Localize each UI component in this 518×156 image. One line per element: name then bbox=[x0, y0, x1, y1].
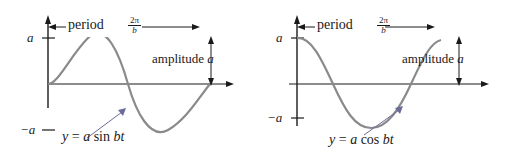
y-axis-label-positive-a: a bbox=[276, 31, 283, 44]
amplitude-annotation: amplitude a bbox=[152, 52, 214, 65]
period-denominator: b bbox=[128, 25, 141, 35]
y-axis-label-negative-a: −a bbox=[20, 123, 35, 136]
equation-amplitude: a bbox=[350, 132, 357, 147]
period-value-fraction: 2π b bbox=[377, 16, 390, 36]
equation-equals: = bbox=[339, 132, 347, 147]
period-arrow-right-head-icon bbox=[427, 24, 435, 30]
amplitude-annotation: amplitude a bbox=[402, 52, 464, 65]
equation-leader-arrowhead-icon bbox=[118, 108, 126, 116]
cosine-equation-label: y = a cos bt bbox=[329, 133, 394, 147]
amplitude-arrow-top-head-icon bbox=[208, 36, 214, 44]
y-axis-label-negative-a: −a bbox=[267, 111, 282, 124]
period-numerator: 2π bbox=[377, 16, 390, 25]
period-arrow-right-head-icon bbox=[192, 24, 200, 30]
amplitude-label: amplitude bbox=[152, 51, 204, 66]
period-value-fraction: 2π b bbox=[128, 16, 141, 36]
equation-function: sin bbox=[94, 129, 110, 144]
equation-lhs: y bbox=[62, 129, 68, 144]
cosine-panel: a −a period 2π b amplitude a y = a cos b… bbox=[259, 0, 518, 156]
period-label: period bbox=[68, 18, 104, 32]
equation-amplitude: a bbox=[83, 129, 90, 144]
period-denominator: b bbox=[377, 25, 390, 35]
amplitude-value: a bbox=[207, 51, 214, 66]
y-axis-arrowhead-icon bbox=[294, 15, 300, 24]
amplitude-value: a bbox=[457, 51, 464, 66]
y-axis-label-positive-a: a bbox=[27, 31, 34, 44]
period-arrow-left-head-icon bbox=[297, 24, 305, 30]
equation-argument: bt bbox=[383, 132, 394, 147]
period-numerator: 2π bbox=[128, 16, 141, 25]
y-axis-arrowhead-icon bbox=[45, 15, 51, 24]
sine-equation-label: y = a sin bt bbox=[62, 130, 124, 144]
period-arrow-left-head-icon bbox=[48, 24, 56, 30]
amplitude-arrow-top-head-icon bbox=[456, 36, 462, 44]
sine-cosine-figure-pair: a −a period 2π b amplitude a y = a sin b… bbox=[0, 0, 518, 156]
x-axis-arrowhead-icon bbox=[226, 81, 234, 87]
sine-panel: a −a period 2π b amplitude a y = a sin b… bbox=[0, 0, 259, 156]
amplitude-label: amplitude bbox=[402, 51, 454, 66]
equation-lhs: y bbox=[329, 132, 335, 147]
equation-equals: = bbox=[72, 129, 80, 144]
equation-argument: bt bbox=[113, 129, 124, 144]
amplitude-arrow-bottom-head-icon bbox=[456, 78, 462, 86]
period-label: period bbox=[317, 18, 353, 32]
equation-function: cos bbox=[361, 132, 380, 147]
x-axis-arrowhead-icon bbox=[481, 81, 489, 87]
sine-curve bbox=[48, 33, 210, 132]
